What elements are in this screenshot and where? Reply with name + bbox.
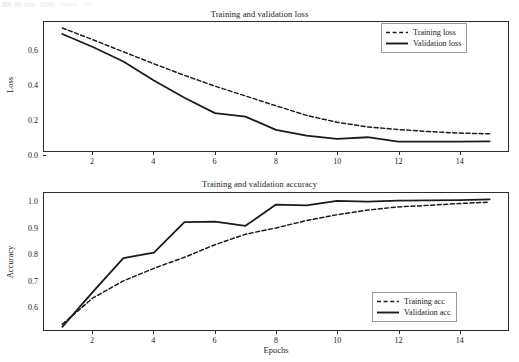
loss-ytick-label: 0.4 — [28, 81, 38, 90]
loss-y-tick-labels: 0.6 0.4 0.2 0.0 — [10, 21, 38, 152]
loss-xtick-label: 6 — [213, 157, 217, 166]
accuracy-x-axis-label: Epochs — [43, 345, 509, 355]
legend-label: Training acc — [404, 296, 445, 307]
legend-entry-training-acc[interactable]: Training acc — [377, 296, 451, 307]
loss-x-tick-labels: 2 4 6 8 10 12 14 — [43, 152, 509, 170]
loss-xtick-mark — [276, 152, 277, 155]
loss-xtick-mark — [460, 152, 461, 155]
legend-label: Training loss — [413, 27, 456, 38]
loss-xtick-label: 8 — [274, 157, 278, 166]
loss-ytick-label: 0.0 — [28, 151, 38, 160]
accuracy-xtick-label: 2 — [90, 336, 94, 345]
loss-xtick-mark — [215, 152, 216, 155]
loss-xtick-label: 2 — [90, 157, 94, 166]
accuracy-xtick-mark — [460, 331, 461, 334]
accuracy-xtick-label: 8 — [274, 336, 278, 345]
loss-xtick-mark — [92, 152, 93, 155]
solid-line-icon — [386, 39, 408, 48]
accuracy-y-tick-labels: 1.0 0.9 0.8 0.7 0.6 — [10, 192, 38, 331]
accuracy-xtick-label: 6 — [213, 336, 217, 345]
accuracy-chart-panel: Training and validation accuracy Accurac… — [0, 172, 519, 362]
accuracy-xtick-label: 4 — [151, 336, 155, 345]
loss-xtick-label: 10 — [333, 157, 341, 166]
accuracy-ytick-label: 0.9 — [28, 223, 38, 232]
legend-label: Validation loss — [413, 38, 461, 49]
loss-xtick-label: 4 — [151, 157, 155, 166]
accuracy-xtick-label: 12 — [395, 336, 403, 345]
accuracy-ytick-label: 0.7 — [28, 276, 38, 285]
loss-xtick-mark — [153, 152, 154, 155]
loss-chart-title: Training and validation loss — [0, 9, 519, 19]
accuracy-legend[interactable]: Training acc Validation acc — [372, 292, 457, 322]
loss-ytick-label: 0.6 — [28, 46, 38, 55]
legend-entry-validation-acc[interactable]: Validation acc — [377, 307, 451, 318]
accuracy-xtick-mark — [92, 331, 93, 334]
solid-line-icon — [377, 308, 399, 317]
loss-xtick-mark — [399, 152, 400, 155]
accuracy-xtick-mark — [215, 331, 216, 334]
dashed-line-icon — [386, 28, 408, 37]
accuracy-ytick-label: 0.8 — [28, 250, 38, 259]
accuracy-ytick-label: 0.6 — [28, 303, 38, 312]
loss-xtick-mark — [337, 152, 338, 155]
accuracy-xtick-mark — [337, 331, 338, 334]
loss-xtick-label: 12 — [395, 157, 403, 166]
dashed-line-icon — [377, 297, 399, 306]
accuracy-xtick-mark — [153, 331, 154, 334]
accuracy-xtick-mark — [276, 331, 277, 334]
matplotlib-figure: Training and validation loss Loss 0.6 0.… — [0, 0, 519, 362]
accuracy-xtick-label: 14 — [456, 336, 464, 345]
accuracy-ytick-label: 1.0 — [28, 197, 38, 206]
accuracy-xtick-mark — [399, 331, 400, 334]
legend-label: Validation acc — [404, 307, 451, 318]
loss-xtick-label: 14 — [456, 157, 464, 166]
legend-entry-training-loss[interactable]: Training loss — [386, 27, 461, 38]
loss-legend[interactable]: Training loss Validation loss — [381, 23, 467, 53]
accuracy-xtick-label: 10 — [333, 336, 341, 345]
legend-entry-validation-loss[interactable]: Validation loss — [386, 38, 461, 49]
accuracy-chart-title: Training and validation accuracy — [0, 179, 519, 189]
loss-chart-panel: Training and validation loss Loss 0.6 0.… — [0, 0, 519, 176]
loss-ytick-label: 0.2 — [28, 116, 38, 125]
